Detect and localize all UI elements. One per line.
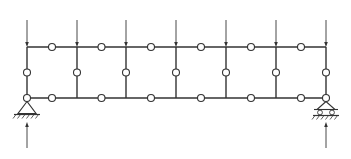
hinge-icon [49, 44, 56, 51]
frame-diagram-svg [0, 0, 351, 159]
hinge-icon [273, 69, 280, 76]
load-arrow-head-icon [224, 42, 228, 47]
hinge-icon [223, 69, 230, 76]
hinge-icon [248, 44, 255, 51]
load-arrow-head-icon [274, 42, 278, 47]
hinge-icon [198, 44, 205, 51]
hinge-icon [148, 95, 155, 102]
hinge-icon [248, 95, 255, 102]
roller-wheel-icon [318, 110, 323, 115]
reaction-arrow-head-icon [25, 122, 29, 127]
hinge-icon [74, 69, 81, 76]
roller-support-icon [317, 102, 335, 110]
hinge-icon [49, 95, 56, 102]
hinge-icon [298, 95, 305, 102]
hinge-icon [98, 95, 105, 102]
hinge-icon [323, 69, 330, 76]
hinge-icon [173, 69, 180, 76]
support-hinge-icon [323, 95, 330, 102]
pin-support-icon [18, 102, 36, 114]
support-hinge-icon [24, 95, 31, 102]
roller-wheel-icon [330, 110, 335, 115]
hinge-icon [98, 44, 105, 51]
load-arrow-head-icon [174, 42, 178, 47]
reaction-arrow-head-icon [324, 122, 328, 127]
load-arrow-head-icon [75, 42, 79, 47]
hinge-icon [123, 69, 130, 76]
hinge-icon [148, 44, 155, 51]
load-arrow-head-icon [25, 42, 29, 47]
frame-diagram [0, 0, 351, 159]
hinge-icon [298, 44, 305, 51]
hinge-icon [198, 95, 205, 102]
load-arrow-head-icon [324, 42, 328, 47]
hinge-icon [24, 69, 31, 76]
load-arrow-head-icon [124, 42, 128, 47]
